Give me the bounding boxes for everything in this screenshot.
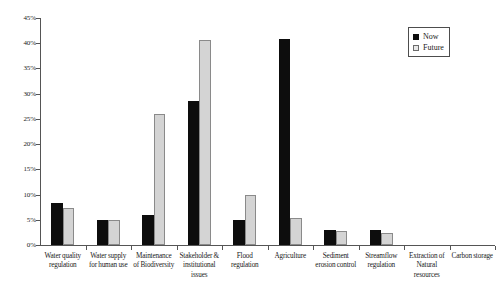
bar-future bbox=[199, 40, 210, 245]
bar-chart: 0%5%10%15%20%25%30%35%40%45% Water quali… bbox=[0, 0, 503, 299]
bar-group bbox=[324, 18, 347, 245]
bar-future bbox=[336, 231, 347, 245]
y-axis-tick-label: 15% bbox=[23, 165, 36, 173]
bar-future bbox=[108, 220, 119, 245]
bar-now bbox=[233, 220, 244, 245]
y-axis-tick bbox=[36, 94, 41, 95]
bar-future bbox=[154, 114, 165, 245]
bar-now bbox=[142, 215, 153, 245]
bar-future bbox=[245, 195, 256, 245]
bar-group bbox=[188, 18, 211, 245]
y-axis-tick-label: 20% bbox=[23, 140, 36, 148]
y-axis-tick-label: 0% bbox=[27, 241, 36, 249]
x-axis-tick bbox=[450, 246, 451, 250]
y-axis-tick bbox=[36, 119, 41, 120]
y-axis-tick bbox=[36, 220, 41, 221]
legend-swatch-future-icon bbox=[413, 45, 419, 51]
bar-now bbox=[51, 203, 62, 245]
legend-label: Future bbox=[423, 43, 444, 52]
bar-group bbox=[233, 18, 256, 245]
y-axis-tick bbox=[36, 144, 41, 145]
bar-group bbox=[370, 18, 393, 245]
y-axis-tick bbox=[36, 245, 41, 246]
y-axis-tick bbox=[36, 68, 41, 69]
y-axis-tick bbox=[36, 169, 41, 170]
y-axis-tick-label: 45% bbox=[23, 14, 36, 22]
bar-group bbox=[279, 18, 302, 245]
bar-now bbox=[370, 230, 381, 245]
chart-legend: NowFuture bbox=[408, 27, 450, 57]
bar-group bbox=[142, 18, 165, 245]
bar-group bbox=[97, 18, 120, 245]
bar-future bbox=[290, 218, 301, 245]
x-axis-tick bbox=[177, 246, 178, 250]
y-axis-tick-label: 40% bbox=[23, 39, 36, 47]
y-axis-tick-label: 30% bbox=[23, 90, 36, 98]
legend-label: Now bbox=[423, 32, 439, 41]
y-axis-line bbox=[40, 18, 41, 246]
y-axis-tick bbox=[36, 195, 41, 196]
bar-future bbox=[381, 233, 392, 245]
y-axis-tick bbox=[36, 18, 41, 19]
y-axis-tick-label: 25% bbox=[23, 115, 36, 123]
y-axis-tick-label: 5% bbox=[27, 216, 36, 224]
bar-now bbox=[97, 220, 108, 245]
x-axis-category-label: Carbon storage bbox=[445, 252, 501, 261]
y-axis-tick-label: 10% bbox=[23, 191, 36, 199]
y-axis-tick-label: 35% bbox=[23, 64, 36, 72]
x-axis-tick bbox=[359, 246, 360, 250]
y-axis-tick bbox=[36, 43, 41, 44]
bar-now bbox=[324, 230, 335, 245]
x-axis-tick bbox=[268, 246, 269, 250]
x-axis-tick bbox=[131, 246, 132, 250]
x-axis-tick bbox=[222, 246, 223, 250]
legend-item-future: Future bbox=[413, 42, 444, 53]
x-axis-tick bbox=[404, 246, 405, 250]
bar-now bbox=[279, 39, 290, 245]
x-axis-tick bbox=[495, 246, 496, 250]
legend-item-now: Now bbox=[413, 31, 444, 42]
bar-group bbox=[51, 18, 74, 245]
x-axis-tick bbox=[313, 246, 314, 250]
x-axis-tick bbox=[86, 246, 87, 250]
bar-now bbox=[188, 101, 199, 245]
bar-group bbox=[461, 18, 484, 245]
legend-swatch-now-icon bbox=[413, 34, 419, 40]
bar-future bbox=[63, 208, 74, 245]
